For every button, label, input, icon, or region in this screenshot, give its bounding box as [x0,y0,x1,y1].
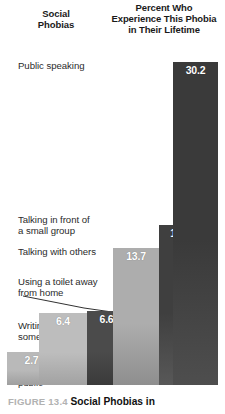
figure-caption: FIGURE 13.4 Social Phobias in [8,396,225,408]
bar-value-label: 6.4 [39,315,87,327]
bar: 30.2 [173,62,218,385]
figure-social-phobias: Social Phobias Percent Who Experience Th… [0,0,225,414]
figure-title: Social Phobias in [71,396,155,407]
bar-chart-plot-area: 2.76.46.613.715.230.2 [0,0,225,414]
bar-value-label: 13.7 [113,250,159,262]
bar-value-label: 30.2 [173,64,218,76]
bar: 13.7 [113,248,159,385]
figure-number: FIGURE 13.4 [8,396,68,407]
bar: 6.4 [39,313,87,385]
